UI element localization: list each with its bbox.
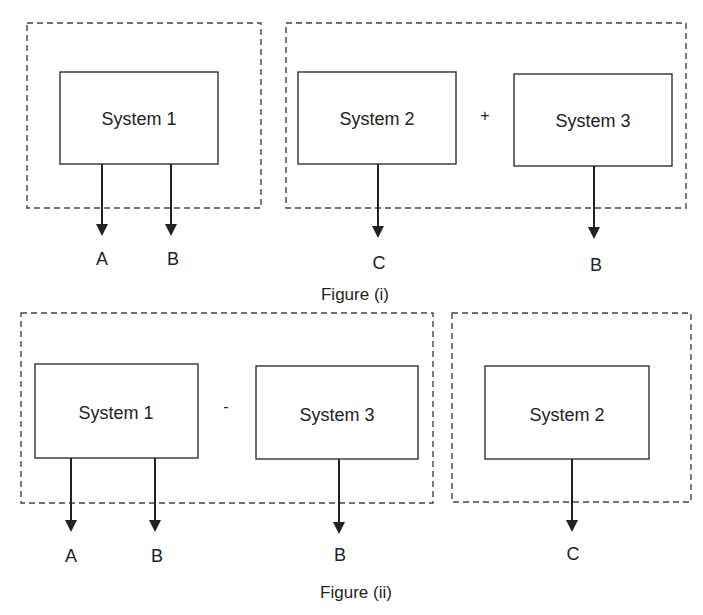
fig1-system-2-label: System 2 xyxy=(339,109,414,129)
diagram-canvas: System 1 A B System 2 + System 3 C B Fig… xyxy=(0,0,703,615)
fig1-arrow-a-head-icon xyxy=(96,224,108,236)
fig2-system-1-label: System 1 xyxy=(78,403,153,423)
fig1-output-a: A xyxy=(96,249,108,269)
fig1-output-b2: B xyxy=(590,255,602,275)
fig1-arrow-b-head-icon xyxy=(165,224,177,236)
fig2-output-b: B xyxy=(151,546,163,566)
fig2-output-b2: B xyxy=(334,545,346,565)
fig1-output-b: B xyxy=(167,249,179,269)
fig1-system-1-label: System 1 xyxy=(101,109,176,129)
fig2-system-3-label: System 3 xyxy=(299,405,374,425)
fig2-arrow-b2-head-icon xyxy=(333,522,345,534)
fig2-system-2-label: System 2 xyxy=(529,405,604,425)
fig2-arrow-b-head-icon xyxy=(149,520,161,532)
fig1-arrow-b2-head-icon xyxy=(588,227,600,239)
fig2-output-a: A xyxy=(65,546,77,566)
fig1-plus-operator: + xyxy=(480,107,489,124)
fig2-minus-operator: - xyxy=(223,398,228,415)
figure-i-caption: Figure (i) xyxy=(321,285,389,304)
fig1-output-c: C xyxy=(373,253,386,273)
fig2-arrow-a-head-icon xyxy=(65,520,77,532)
fig1-arrow-c-head-icon xyxy=(372,226,384,238)
fig2-output-c: C xyxy=(567,544,580,564)
fig1-system-3-label: System 3 xyxy=(555,111,630,131)
figure-ii-caption: Figure (ii) xyxy=(320,583,392,602)
fig2-arrow-c-head-icon xyxy=(566,520,578,532)
figure-i: System 1 A B System 2 + System 3 C B Fig… xyxy=(27,23,686,304)
figure-ii: System 1 - System 3 A B B System 2 C Fig… xyxy=(21,313,691,602)
